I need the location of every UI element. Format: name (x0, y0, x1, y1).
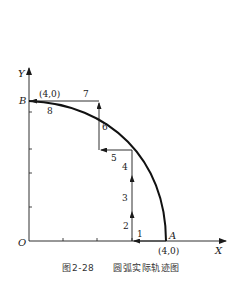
origin-label: O (18, 237, 26, 248)
point-b-coord: (4,0) (39, 89, 60, 99)
step-labels: 1 2 3 4 5 6 7 8 (47, 89, 143, 239)
step-label-6: 6 (102, 122, 108, 132)
step-label-5: 5 (111, 153, 117, 163)
step-label-4: 4 (122, 162, 128, 172)
interpolation-steps (31, 101, 166, 241)
point-a-coord: (4,0) (158, 246, 179, 256)
figure-caption: 图2-28 圆弧实际轨迹图 (0, 261, 242, 274)
figure-title: 圆弧实际轨迹图 (113, 261, 180, 274)
step-label-7: 7 (83, 89, 89, 99)
figure-number: 图2-28 (62, 261, 94, 274)
step-label-1: 1 (137, 229, 143, 239)
point-b-label: B (18, 95, 26, 106)
circular-arc (29, 101, 166, 241)
x-axis-label: X (214, 245, 223, 256)
arc-trajectory-diagram: 1 2 3 4 5 6 7 8 Y X O B A (4,0) (4,0) (0, 0, 242, 290)
step-label-3: 3 (122, 193, 128, 203)
y-axis-label: Y (18, 68, 26, 79)
step-label-8: 8 (47, 106, 53, 116)
point-a-label: A (168, 230, 176, 241)
step-label-2: 2 (123, 221, 129, 231)
